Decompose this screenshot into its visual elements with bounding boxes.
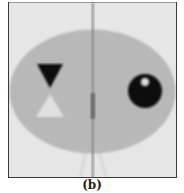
vertical-streak <box>92 2 95 178</box>
figure-caption: (b) <box>0 178 184 193</box>
phantom-figure <box>0 0 184 193</box>
disk-highlight <box>140 77 150 87</box>
vertical-streak-dense <box>91 93 96 119</box>
